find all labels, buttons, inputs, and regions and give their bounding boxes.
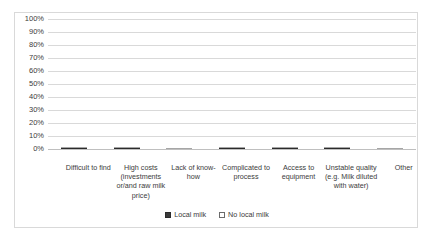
legend-item-local-milk[interactable]: Local milk: [165, 211, 206, 218]
legend-swatch-local-milk-icon: [165, 212, 171, 218]
bar-segment-local-milk[interactable]: [272, 148, 298, 149]
x-axis-category-label: Lack of know-how: [167, 163, 220, 181]
stacked-bar[interactable]: [61, 147, 87, 149]
bars-group: [48, 19, 416, 149]
bar-slot: [258, 19, 311, 149]
bar-segment-local-milk[interactable]: [114, 148, 140, 149]
stacked-bar[interactable]: [324, 147, 350, 149]
y-axis-tick-label: 20%: [29, 119, 44, 127]
y-axis-tick-label: 50%: [29, 80, 44, 88]
y-axis-tick-label: 10%: [29, 132, 44, 140]
bar-segment-no-local-milk[interactable]: [377, 148, 403, 149]
stacked-bar[interactable]: [166, 148, 192, 149]
legend-item-no-local-milk[interactable]: No local milk: [219, 211, 269, 218]
bar-segment-local-milk[interactable]: [324, 148, 350, 149]
x-axis-category-label: Access to equipment: [272, 163, 325, 181]
x-axis-category-label: High costs (investments or/and raw milk …: [115, 163, 168, 200]
y-axis-tick-label: 30%: [29, 106, 44, 114]
bar-slot: [206, 19, 259, 149]
y-axis-tick-label: 60%: [29, 67, 44, 75]
bar-slot: [101, 19, 154, 149]
legend-swatch-no-local-milk-icon: [219, 212, 225, 218]
bar-slot: [363, 19, 416, 149]
bar-slot: [48, 19, 101, 149]
stacked-bar[interactable]: [272, 147, 298, 149]
chart-container: 0%10%20%30%40%50%60%70%80%90%100% Diffic…: [14, 12, 418, 228]
plot-area: 0%10%20%30%40%50%60%70%80%90%100%: [48, 19, 416, 149]
y-axis-tick-label: 40%: [29, 93, 44, 101]
y-axis-tick-label: 100%: [25, 15, 44, 23]
y-axis-tick-label: 0%: [33, 145, 44, 153]
x-axis-category-label: Complicated to process: [220, 163, 273, 181]
y-axis-tick-label: 90%: [29, 28, 44, 36]
y-axis-tick-label: 70%: [29, 54, 44, 62]
x-axis-category-label: Difficult to find: [62, 163, 115, 172]
bar-slot: [311, 19, 364, 149]
legend-label-no-local-milk: No local milk: [228, 211, 269, 218]
bar-segment-local-milk[interactable]: [61, 148, 87, 149]
stacked-bar[interactable]: [114, 147, 140, 149]
bar-segment-no-local-milk[interactable]: [166, 148, 192, 149]
chart-legend: Local milk No local milk: [15, 211, 419, 218]
x-axis-category-label: Unstable quality (e.g. Milk diluted with…: [325, 163, 378, 191]
x-axis-category-label: Other: [377, 163, 430, 172]
stacked-bar[interactable]: [377, 148, 403, 149]
gridline: [48, 149, 416, 150]
y-axis-tick-label: 80%: [29, 41, 44, 49]
bar-slot: [153, 19, 206, 149]
legend-label-local-milk: Local milk: [174, 211, 206, 218]
bar-segment-local-milk[interactable]: [219, 148, 245, 149]
stacked-bar[interactable]: [219, 147, 245, 149]
